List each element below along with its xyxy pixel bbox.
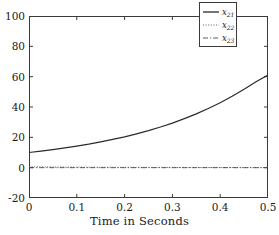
x-tick-label: 0.3 [152,202,192,213]
x-tick-label: 0.2 [105,202,145,213]
legend-swatch-x22 [202,20,220,30]
legend-swatch-x21 [202,7,220,17]
legend-box: x21x22x23 [199,2,237,47]
y-tick-label: 60 [12,72,25,83]
x-axis-label: Time in Seconds [0,214,279,228]
figure-canvas: 100806040200-20 00.10.20.30.40.5 Time in… [0,0,279,235]
x-tick-label: 0.1 [57,202,97,213]
x-tick-label: 0 [9,202,49,213]
series-line-x21 [29,75,268,152]
x-tick-label: 0.4 [200,202,240,213]
legend-item-x21[interactable]: x21 [202,5,234,18]
y-tick-label: 0 [18,163,25,174]
legend-label-x22: x22 [222,20,234,30]
y-tick-label: 100 [5,11,25,22]
legend-swatch-x23 [202,33,220,43]
y-tick-label: 40 [12,102,25,113]
x-tick-label: 0.5 [248,202,279,213]
legend-item-x22[interactable]: x22 [202,18,234,31]
legend-label-x23: x23 [222,33,234,43]
legend-label-x21: x21 [222,7,234,17]
legend-item-x23[interactable]: x23 [202,31,234,44]
y-tick-label: 80 [12,41,25,52]
y-tick-label: 20 [12,132,25,143]
